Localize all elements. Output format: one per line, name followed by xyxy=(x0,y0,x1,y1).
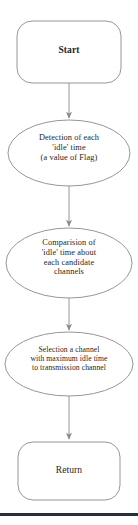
node-comparison-shape[interactable] xyxy=(6,228,132,298)
node-selection-shape[interactable] xyxy=(5,332,133,396)
flowchart-shapes-layer xyxy=(0,0,138,525)
flowchart-diagram: Start Detection of each 'idle' time (a v… xyxy=(0,0,138,525)
node-return-shape[interactable] xyxy=(18,442,120,500)
bottom-divider-rule xyxy=(0,513,138,516)
node-detection-shape[interactable] xyxy=(8,120,130,186)
node-start-shape[interactable] xyxy=(17,21,121,83)
